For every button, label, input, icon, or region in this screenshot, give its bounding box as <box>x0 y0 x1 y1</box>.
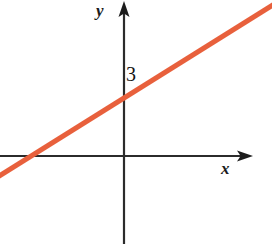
plotted-line <box>0 0 272 188</box>
x-axis-label: x <box>221 160 230 177</box>
coordinate-plane <box>0 0 272 244</box>
graph-figure: y x 3 <box>0 0 272 244</box>
y-axis-label: y <box>96 2 104 19</box>
y-intercept-label: 3 <box>126 64 136 84</box>
